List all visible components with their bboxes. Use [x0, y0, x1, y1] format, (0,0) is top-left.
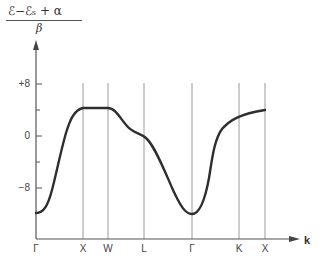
x-tick-x-2: X	[257, 243, 273, 254]
y-tick-minus8: −8	[6, 182, 30, 193]
y-axis-arrow-icon	[33, 40, 39, 50]
x-axis-arrow-icon	[289, 236, 300, 242]
x-tick-gamma-2: Γ	[184, 243, 200, 254]
y-tick-zero: 0	[6, 130, 30, 141]
x-tick-gamma-1: Γ	[28, 243, 44, 254]
x-tick-x-1: X	[75, 243, 91, 254]
y-ticks	[36, 84, 42, 188]
x-axis-label: k	[304, 234, 310, 246]
x-tick-w: W	[100, 243, 116, 254]
symmetry-lines	[83, 83, 265, 239]
band-structure-plot	[0, 0, 326, 266]
y-tick-plus8: +8	[6, 78, 30, 89]
x-tick-k: K	[231, 243, 247, 254]
x-tick-l: L	[136, 243, 152, 254]
band-curve	[36, 108, 265, 214]
